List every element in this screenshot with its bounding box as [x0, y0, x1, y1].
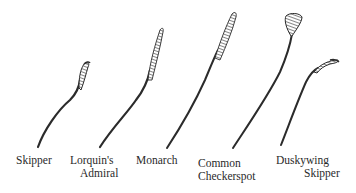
label-lorquins-admiral: Lorquin's Admiral — [70, 154, 118, 180]
label-line: Skipper — [304, 167, 340, 180]
label-monarch: Monarch — [136, 154, 178, 167]
monarch-antenna-icon — [167, 13, 236, 148]
label-line: Duskywing — [276, 154, 340, 167]
label-common-checkerspot: Common Checkerspot — [198, 157, 255, 183]
common-checkerspot-antenna-icon — [233, 13, 302, 148]
label-line: Common — [198, 157, 255, 170]
lorquins-admiral-antenna-icon — [100, 28, 163, 147]
label-line: Skipper — [16, 154, 52, 167]
skipper-antenna-icon — [38, 62, 90, 147]
label-line: Monarch — [136, 154, 178, 167]
duskywing-skipper-antenna-icon — [281, 60, 339, 145]
label-line: Lorquin's — [70, 154, 118, 167]
label-line: Admiral — [80, 167, 118, 180]
label-line: Checkerspot — [198, 170, 255, 183]
label-duskywing-skipper: Duskywing Skipper — [276, 154, 340, 180]
label-skipper: Skipper — [16, 154, 52, 167]
